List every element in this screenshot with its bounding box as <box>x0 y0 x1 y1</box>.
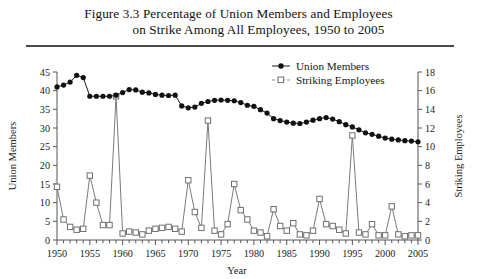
data-point-union-members <box>317 116 322 121</box>
x-tick-label: 1950 <box>47 248 67 259</box>
data-point-striking-employees <box>179 229 184 234</box>
data-point-striking-employees <box>61 217 66 222</box>
data-point-union-members <box>291 121 296 126</box>
data-point-union-members <box>350 124 355 129</box>
data-point-union-members <box>107 94 112 99</box>
data-point-union-members <box>264 110 269 115</box>
y-tick-label-left: 10 <box>40 197 50 208</box>
x-tick-label: 1970 <box>178 248 198 259</box>
data-point-union-members <box>87 94 92 99</box>
data-point-striking-employees <box>127 229 132 234</box>
data-point-union-members <box>133 87 138 92</box>
data-point-striking-employees <box>310 228 315 233</box>
data-point-striking-employees <box>277 223 282 228</box>
y-tick-label-left: 25 <box>40 141 50 152</box>
data-point-union-members <box>245 103 250 108</box>
data-point-striking-employees <box>67 224 72 229</box>
y-tick-label-right: 12 <box>425 123 435 134</box>
y-tick-label-left: 0 <box>45 235 50 246</box>
x-tick-label: 1955 <box>80 248 100 259</box>
data-point-striking-employees <box>166 224 171 229</box>
data-point-striking-employees <box>363 232 368 237</box>
data-point-striking-employees <box>133 230 138 235</box>
data-point-striking-employees <box>330 223 335 228</box>
data-point-striking-employees <box>409 233 414 238</box>
data-point-union-members <box>127 87 132 92</box>
plot-area: 051015202530354045 024681012141618 19501… <box>0 52 477 279</box>
data-point-union-members <box>376 134 381 139</box>
data-point-union-members <box>153 92 158 97</box>
data-point-striking-employees <box>284 228 289 233</box>
data-point-union-members <box>232 98 237 103</box>
data-point-striking-employees <box>225 221 230 226</box>
data-point-union-members <box>68 79 73 84</box>
data-point-striking-employees <box>120 231 125 236</box>
data-point-union-members <box>389 137 394 142</box>
x-axis-ticks <box>57 240 418 245</box>
x-axis-tick-labels: 1950195519601965197019751980198519901995… <box>47 248 428 259</box>
open-square-icon <box>278 77 284 83</box>
data-point-union-members <box>409 138 414 143</box>
y-tick-label-left: 35 <box>40 104 50 115</box>
data-point-union-members <box>113 93 118 98</box>
data-point-striking-employees <box>205 118 210 123</box>
data-point-union-members <box>186 105 191 110</box>
y-tick-label-right: 14 <box>425 104 435 115</box>
filled-circle-icon <box>278 63 283 68</box>
series-markers-striking-employees <box>54 94 420 239</box>
y-tick-label-left: 45 <box>40 67 50 78</box>
y-tick-label-right: 18 <box>425 67 435 78</box>
y-tick-label-left: 5 <box>45 216 50 227</box>
data-point-union-members <box>363 130 368 135</box>
data-point-striking-employees <box>172 226 177 231</box>
x-tick-label: 1960 <box>112 248 132 259</box>
data-point-striking-employees <box>323 221 328 226</box>
data-point-union-members <box>251 104 256 109</box>
data-point-union-members <box>258 107 263 112</box>
data-point-striking-employees <box>146 228 151 233</box>
data-point-striking-employees <box>337 227 342 232</box>
x-tick-label: 2005 <box>408 248 428 259</box>
y-axis-left-title: Union Members <box>7 122 18 191</box>
data-point-striking-employees <box>258 230 263 235</box>
x-tick-label: 1980 <box>244 248 264 259</box>
line-chart: 051015202530354045 024681012141618 19501… <box>0 52 477 279</box>
x-tick-label: 1975 <box>211 248 231 259</box>
data-point-striking-employees <box>245 217 250 222</box>
data-point-union-members <box>140 90 145 95</box>
data-point-striking-employees <box>376 233 381 238</box>
data-point-striking-employees <box>396 232 401 237</box>
data-point-union-members <box>199 101 204 106</box>
legend: Union Members Striking Employees <box>272 60 385 86</box>
data-point-union-members <box>146 90 151 95</box>
data-point-striking-employees <box>107 222 112 227</box>
data-point-union-members <box>94 94 99 99</box>
data-point-union-members <box>304 119 309 124</box>
data-point-striking-employees <box>389 204 394 209</box>
data-point-striking-employees <box>192 209 197 214</box>
data-point-union-members <box>212 98 217 103</box>
data-point-union-members <box>402 138 407 143</box>
legend-item-striking-employees[interactable]: Striking Employees <box>272 74 385 86</box>
y-tick-label-left: 20 <box>40 160 50 171</box>
data-point-striking-employees <box>382 233 387 238</box>
y-tick-label-right: 10 <box>425 141 435 152</box>
data-point-striking-employees <box>153 226 158 231</box>
y-axis-right-ticks: 024681012141618 <box>418 67 435 246</box>
data-point-union-members <box>120 90 125 95</box>
data-point-union-members <box>159 93 164 98</box>
y-tick-label-right: 4 <box>425 197 430 208</box>
data-point-union-members <box>205 99 210 104</box>
x-tick-label: 1995 <box>342 248 362 259</box>
data-point-striking-employees <box>350 133 355 138</box>
data-point-union-members <box>271 116 276 121</box>
x-axis-title: Year <box>227 265 247 276</box>
data-point-union-members <box>61 82 66 87</box>
data-point-striking-employees <box>218 232 223 237</box>
data-point-union-members <box>166 93 171 98</box>
legend-item-union-members[interactable]: Union Members <box>272 60 369 72</box>
y-tick-label-left: 40 <box>40 85 50 96</box>
data-point-striking-employees <box>369 221 374 226</box>
x-tick-label: 1985 <box>277 248 297 259</box>
data-point-union-members <box>192 104 197 109</box>
